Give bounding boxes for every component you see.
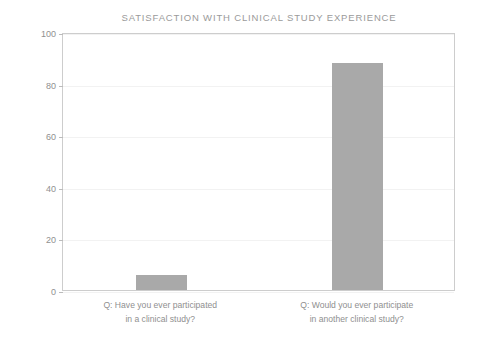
- chart-title: SATISFACTION WITH CLINICAL STUDY EXPERIE…: [62, 12, 456, 23]
- gridline-0: [63, 292, 454, 293]
- x-axis-label-1: Q: Would you ever participatein another …: [252, 299, 462, 326]
- y-tick-mark-40: [59, 189, 63, 190]
- gridline-100: [63, 34, 454, 35]
- x-axis-label-1-line-1: in another clinical study?: [252, 313, 462, 327]
- gridline-60: [63, 137, 454, 138]
- y-tick-mark-0: [59, 292, 63, 293]
- y-tick-mark-60: [59, 137, 63, 138]
- gridline-80: [63, 86, 454, 87]
- y-tick-label-20: 20: [46, 236, 56, 245]
- y-tick-label-80: 80: [46, 81, 56, 90]
- y-tick-mark-80: [59, 86, 63, 87]
- y-tick-label-100: 100: [41, 30, 56, 39]
- y-tick-mark-20: [59, 240, 63, 241]
- y-tick-label-0: 0: [51, 288, 56, 297]
- gridline-40: [63, 189, 454, 190]
- x-axis-label-1-line-0: Q: Would you ever participate: [252, 299, 462, 313]
- x-axis-label-0-line-1: in a clinical study?: [55, 313, 265, 327]
- y-tick-mark-100: [59, 34, 63, 35]
- y-tick-label-40: 40: [46, 184, 56, 193]
- bar-0: [136, 275, 187, 290]
- x-axis-label-0-line-0: Q: Have you ever participated: [55, 299, 265, 313]
- chart-figure: SATISFACTION WITH CLINICAL STUDY EXPERIE…: [0, 0, 481, 348]
- plot-area: 020406080100: [62, 33, 455, 291]
- y-tick-label-60: 60: [46, 133, 56, 142]
- x-axis-label-0: Q: Have you ever participatedin a clinic…: [55, 299, 265, 326]
- gridline-20: [63, 240, 454, 241]
- bar-1: [332, 63, 383, 290]
